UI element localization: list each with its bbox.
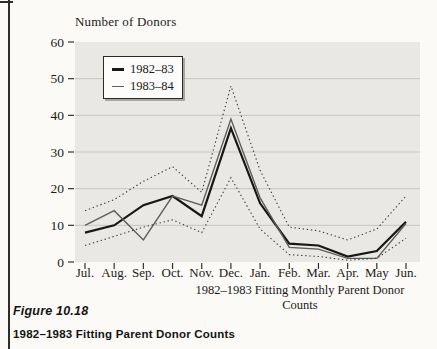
y-tick-label-40: 40 bbox=[51, 108, 65, 123]
legend-label-1983-84: 1983–84 bbox=[130, 79, 174, 94]
figure-caption: 1982–1983 Fitting Parent Donor Counts bbox=[13, 328, 235, 340]
line-swatch-1982-83 bbox=[112, 68, 124, 70]
x-tick-label-1: Aug. bbox=[101, 265, 127, 280]
x-tick-label-9: Apr. bbox=[336, 265, 359, 280]
x-tick-label-2: Sep. bbox=[132, 265, 155, 280]
x-tick-label-10: May bbox=[365, 265, 389, 280]
plot-svg: 0102030405060 Jul.Aug.Sep.Oct.Nov.Dec.Ja… bbox=[0, 0, 437, 300]
x-tick-label-11: Jun. bbox=[395, 265, 416, 280]
x-tick-label-5: Dec. bbox=[219, 265, 243, 280]
x-tick-label-7: Feb. bbox=[278, 265, 301, 280]
x-tick-label-0: Jul. bbox=[76, 265, 94, 280]
y-tick-label-0: 0 bbox=[57, 255, 64, 270]
legend-item-1983-84: 1983–84 bbox=[104, 78, 182, 95]
x-tick-label-3: Oct. bbox=[162, 265, 184, 280]
y-tick-label-10: 10 bbox=[51, 218, 65, 233]
x-axis-label: 1982–1983 Fitting Monthly Parent Donor C… bbox=[178, 283, 422, 313]
x-axis-month-labels: Jul.Aug.Sep.Oct.Nov.Dec.Jan.Feb.Mar.Apr.… bbox=[76, 265, 417, 280]
legend-item-1982-83: 1982–83 bbox=[104, 61, 182, 78]
y-tick-label-60: 60 bbox=[51, 35, 65, 50]
legend-label-1982-83: 1982–83 bbox=[130, 62, 174, 77]
y-tick-label-30: 30 bbox=[51, 145, 65, 160]
x-tick-label-8: Mar. bbox=[306, 265, 330, 280]
line-swatch-1983-84 bbox=[112, 86, 124, 88]
y-axis-tick-labels: 0102030405060 bbox=[51, 35, 65, 270]
y-tick-label-20: 20 bbox=[51, 181, 65, 196]
y-axis-ticks bbox=[68, 42, 74, 262]
x-tick-label-4: Nov. bbox=[189, 265, 214, 280]
x-tick-label-6: Jan. bbox=[250, 265, 271, 280]
figure-label: Figure 10.18 bbox=[13, 304, 88, 318]
y-tick-label-50: 50 bbox=[51, 71, 65, 86]
figure-page: Number of Donors 0102030405060 Jul.Aug.S… bbox=[0, 0, 437, 349]
legend: 1982–83 1983–84 bbox=[103, 56, 183, 99]
